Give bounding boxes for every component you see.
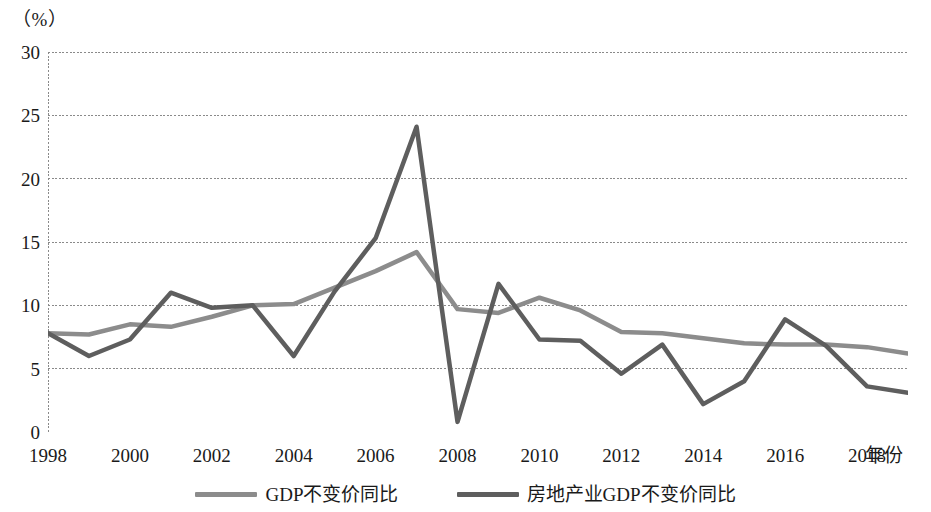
x-tick-label: 2014	[684, 446, 722, 465]
x-tick-label: 2010	[520, 446, 558, 465]
x-tick-label: 2008	[439, 446, 477, 465]
legend-item-1[interactable]: GDP不变价同比	[195, 485, 398, 504]
y-tick-label: 10	[0, 296, 40, 315]
legend-label: 房地产业GDP不变价同比	[527, 485, 736, 504]
plot-canvas	[48, 52, 908, 432]
series-line-2	[48, 127, 908, 422]
legend-item-2[interactable]: 房地产业GDP不变价同比	[457, 485, 736, 504]
x-axis-title: 年份	[865, 446, 903, 465]
x-tick-label: 2004	[275, 446, 313, 465]
legend-swatch-icon	[195, 492, 257, 497]
x-tick-label: 2016	[766, 446, 804, 465]
series-line-1	[48, 252, 908, 353]
x-tick-label: 2000	[111, 446, 149, 465]
y-tick-label: 30	[0, 43, 40, 62]
legend-swatch-icon	[457, 492, 519, 497]
y-tick-label: 20	[0, 170, 40, 189]
legend-label: GDP不变价同比	[265, 485, 398, 504]
x-tick-label: 2002	[193, 446, 231, 465]
x-tick-label: 2006	[357, 446, 395, 465]
chart-legend: GDP不变价同比房地产业GDP不变价同比	[0, 485, 931, 504]
plot-area	[48, 52, 908, 432]
y-tick-label: 25	[0, 106, 40, 125]
y-tick-label: 5	[0, 360, 40, 379]
x-tick-label: 2012	[602, 446, 640, 465]
y-tick-label: 0	[0, 423, 40, 442]
line-chart: （%） 302520151050 19982000200220042006200…	[0, 0, 931, 512]
x-tick-label: 1998	[29, 446, 67, 465]
y-axis-unit-label: （%）	[12, 4, 67, 31]
y-tick-label: 15	[0, 233, 40, 252]
